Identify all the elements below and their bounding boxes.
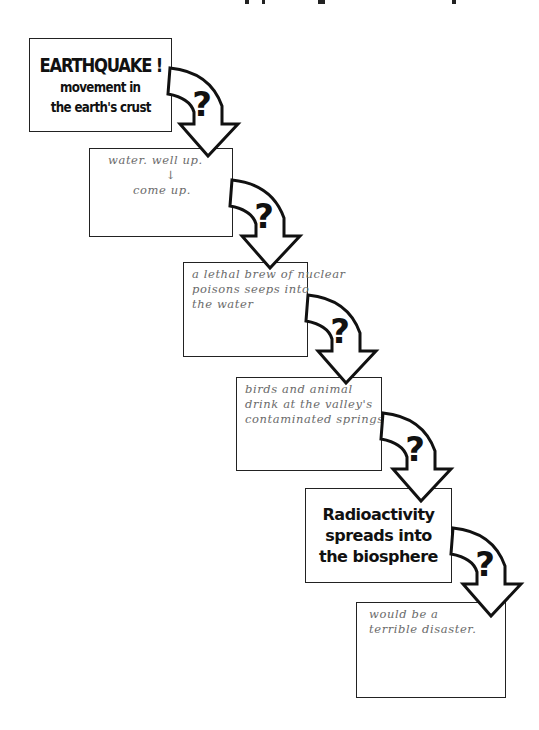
step-line: movement in (60, 77, 140, 97)
curved-arrow-question-icon: ? (288, 287, 398, 387)
question-mark-glyph: ? (330, 311, 350, 351)
cropped-heading-remnant (0, 0, 539, 6)
curved-arrow-question-icon: ? (212, 172, 322, 272)
question-mark-glyph: ? (405, 429, 425, 469)
step-line: come up. (98, 183, 224, 198)
question-mark-glyph: ? (475, 544, 495, 584)
curved-arrow-question-icon: ? (150, 60, 260, 160)
step-line: spreads into (325, 525, 432, 546)
step-line: Radioactivity (323, 504, 435, 525)
question-mark-glyph: ? (254, 196, 274, 236)
step-line: terrible disaster. (365, 622, 497, 637)
question-mark-glyph: ? (192, 84, 212, 124)
step-animals-drink: birds and animal drink at the valley's c… (236, 377, 382, 471)
step-line: poisons seeps into (192, 282, 299, 297)
curved-arrow-question-icon: ? (363, 405, 473, 505)
step-line: contaminated springs. (245, 412, 373, 427)
step-line: the earth's crust (51, 97, 151, 117)
curved-arrow-question-icon: ? (433, 520, 539, 620)
step-line: drink at the valley's (245, 397, 373, 412)
step-line: the biosphere (319, 546, 438, 567)
step-title: EARTHQUAKE ! (39, 53, 161, 77)
step-line: the water (192, 297, 299, 312)
down-arrow-icon: ↓ (98, 168, 224, 183)
